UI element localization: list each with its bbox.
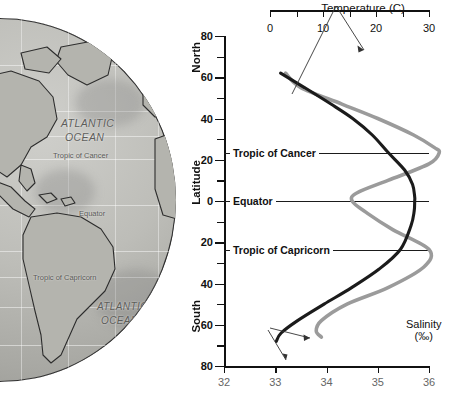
latitude-profile-chart: Temperature (C) North Latitude South Sal… (188, 0, 449, 400)
lat-tick-60s: 60 (201, 319, 213, 331)
globe-surface: ATLANTIC OCEAN Tropic of Cancer Equator … (0, 18, 176, 382)
continent-outlines (0, 19, 176, 382)
map-label-tropic-of-capricorn: Tropic of Capricorn (33, 273, 97, 282)
ocean-label-north-line1: ATLANTIC (61, 117, 114, 129)
latitude-axis-label: Latitude (190, 160, 202, 205)
north-label: North (190, 42, 202, 73)
lat-tick-60n: 60 (201, 71, 213, 83)
lat-tick-80s: 80 (201, 360, 213, 372)
lat-tick-20n: 20 (201, 154, 213, 166)
temp-tick-30: 30 (423, 22, 435, 34)
data-curves (224, 36, 429, 376)
temp-tick-20: 20 (370, 22, 382, 34)
figure-root: ATLANTIC OCEAN Tropic of Cancer Equator … (0, 0, 449, 400)
globe-clip: ATLANTIC OCEAN Tropic of Cancer Equator … (0, 18, 176, 382)
temperature-curve (276, 73, 415, 341)
lat-tick-40s: 40 (201, 278, 213, 290)
globe-map: ATLANTIC OCEAN Tropic of Cancer Equator … (0, 18, 176, 382)
annotation-leaders (268, 6, 364, 360)
sal-tick-32: 32 (218, 376, 230, 388)
salinity-curve (286, 73, 440, 337)
lat-tick-40n: 40 (201, 113, 213, 125)
temp-tick-0: 0 (267, 22, 273, 34)
ocean-label-north-line2: OCEAN (65, 131, 104, 143)
plot-area: 80 60 40 20 0 20 40 60 80 32 33 34 35 36 (224, 36, 429, 366)
sal-tick-36: 36 (423, 376, 435, 388)
map-label-equator: Equator (79, 209, 105, 218)
sal-tick-34: 34 (320, 376, 332, 388)
lat-tick-20s: 20 (201, 236, 213, 248)
sal-tick-35: 35 (372, 376, 384, 388)
map-label-tropic-of-cancer: Tropic of Cancer (53, 151, 108, 160)
sal-tick-33: 33 (269, 376, 281, 388)
lat-tick-0: 0 (207, 195, 213, 207)
temperature-axis-title: Temperature (C) (321, 2, 405, 14)
lat-tick-80n: 80 (201, 30, 213, 42)
ocean-label-south-line1: ATLANTIC (97, 301, 148, 312)
ocean-label-south-line2: OCEAN (101, 315, 139, 326)
